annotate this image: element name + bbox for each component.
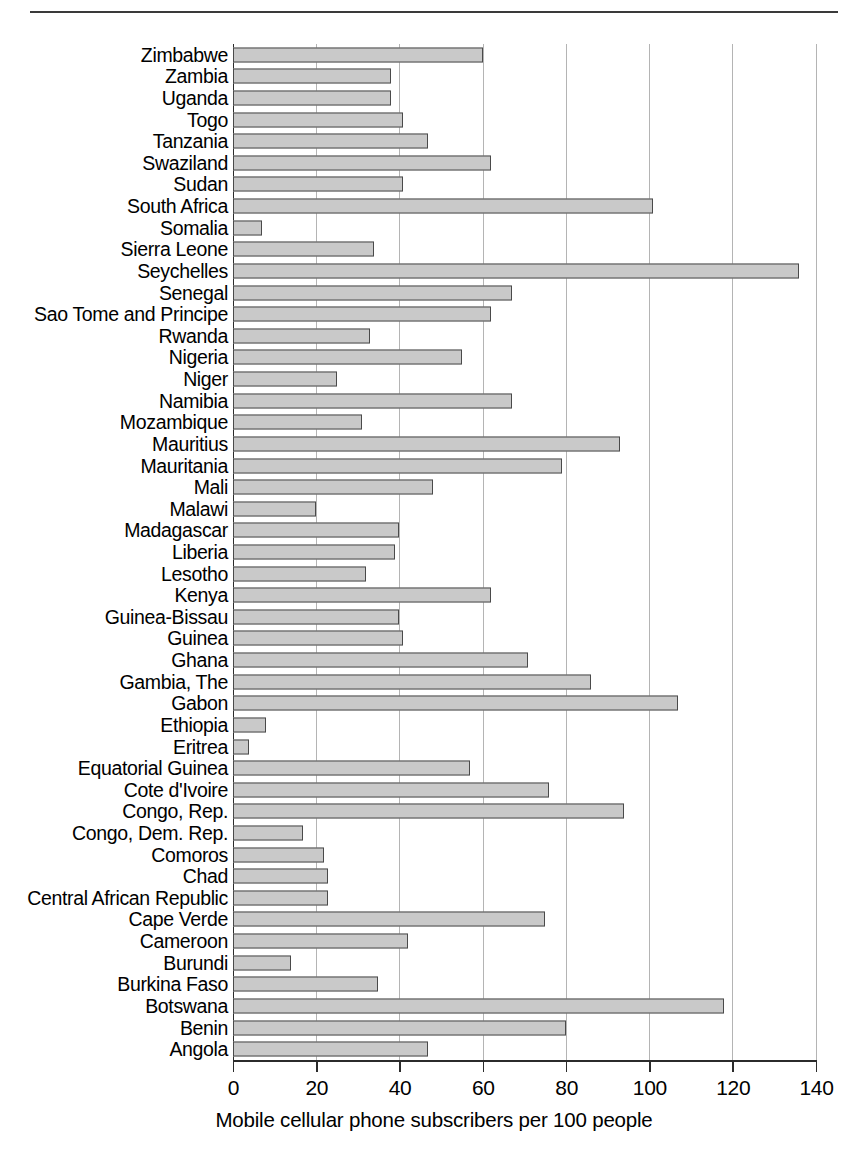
bar-row: Benin: [0, 1017, 868, 1039]
bar: [233, 566, 366, 581]
category-label: South Africa: [127, 195, 228, 217]
category-label: Kenya: [174, 584, 228, 606]
category-label: Senegal: [159, 282, 228, 304]
bar-row: Seychelles: [0, 260, 868, 282]
category-label: Namibia: [159, 390, 228, 412]
bar-row: Mauritania: [0, 455, 868, 477]
bar-row: Guinea: [0, 628, 868, 650]
bar-row: Guinea-Bissau: [0, 606, 868, 628]
bar-row: Madagascar: [0, 520, 868, 542]
bar: [233, 328, 370, 343]
bar: [233, 782, 549, 797]
bar-row: Rwanda: [0, 325, 868, 347]
category-label: Malawi: [169, 498, 228, 520]
category-label: Togo: [187, 109, 228, 131]
tickmark-60: [483, 1062, 485, 1072]
bar-row: Malawi: [0, 498, 868, 520]
category-label: Somalia: [160, 217, 228, 239]
bar-row: Mozambique: [0, 411, 868, 433]
bar-row: Zimbabwe: [0, 44, 868, 66]
bar: [233, 955, 291, 970]
bar: [233, 696, 679, 711]
tickmark-0: [233, 1062, 235, 1072]
bar: [233, 1020, 566, 1035]
x-tick-label: 140: [799, 1076, 833, 1100]
bar-row: Congo, Dem. Rep.: [0, 822, 868, 844]
bar-row: Liberia: [0, 541, 868, 563]
category-label: Madagascar: [124, 519, 228, 541]
x-axis-line: [233, 1060, 817, 1062]
bar: [233, 912, 545, 927]
category-label: Guinea-Bissau: [105, 606, 228, 628]
x-tick-label: 0: [228, 1076, 239, 1100]
tickmark-120: [732, 1062, 734, 1072]
bar: [233, 415, 362, 430]
category-label: Eritrea: [173, 736, 228, 758]
bar: [233, 977, 379, 992]
category-label: Equatorial Guinea: [78, 757, 228, 779]
category-label: Rwanda: [159, 325, 228, 347]
category-label: Comoros: [151, 844, 228, 866]
bar-chart-figure: ZimbabweZambiaUgandaTogoTanzaniaSwazilan…: [0, 0, 868, 1155]
bar: [233, 934, 408, 949]
bar: [233, 588, 491, 603]
top-divider-rule: [30, 11, 838, 13]
x-tick-label: 80: [555, 1076, 578, 1100]
x-axis-title: Mobile cellular phone subscribers per 10…: [0, 1108, 868, 1132]
bar: [233, 739, 250, 754]
bar-row: Gabon: [0, 693, 868, 715]
bar-row: Kenya: [0, 584, 868, 606]
tickmark-20: [316, 1062, 318, 1072]
category-label: Nigeria: [169, 346, 228, 368]
category-label: Central African Republic: [27, 887, 228, 909]
bar-row: Swaziland: [0, 152, 868, 174]
bar-row: Sudan: [0, 174, 868, 196]
bar: [233, 436, 620, 451]
bar: [233, 631, 404, 646]
bar-row: Zambia: [0, 66, 868, 88]
tickmark-100: [649, 1062, 651, 1072]
tickmark-40: [399, 1062, 401, 1072]
category-label: Guinea: [167, 627, 228, 649]
category-label: Seychelles: [137, 260, 228, 282]
category-label: Niger: [183, 368, 228, 390]
category-label: Benin: [180, 1017, 228, 1039]
category-label: Swaziland: [142, 152, 228, 174]
category-label: Cote d'Ivoire: [124, 779, 228, 801]
category-label: Liberia: [172, 541, 228, 563]
category-label: Mali: [194, 476, 228, 498]
category-label: Mauritania: [140, 455, 228, 477]
bar: [233, 69, 391, 84]
bar: [233, 91, 391, 106]
bar-row: Gambia, The: [0, 671, 868, 693]
bar: [233, 761, 470, 776]
bar: [233, 1042, 429, 1057]
bar: [233, 998, 724, 1013]
bar-row: Lesotho: [0, 563, 868, 585]
bar: [233, 155, 491, 170]
bar-row: Mauritius: [0, 433, 868, 455]
bar: [233, 609, 400, 624]
tickmark-80: [566, 1062, 568, 1072]
bar-row: Mali: [0, 476, 868, 498]
bar-row: Nigeria: [0, 347, 868, 369]
bar-row: Namibia: [0, 390, 868, 412]
bar-row: Ghana: [0, 649, 868, 671]
category-label: Sudan: [173, 173, 228, 195]
x-tick-label: 40: [389, 1076, 412, 1100]
category-label: Lesotho: [161, 563, 228, 585]
bar: [233, 804, 624, 819]
bar-row: Tanzania: [0, 130, 868, 152]
bar-row: Ethiopia: [0, 714, 868, 736]
bar-row: Togo: [0, 109, 868, 131]
category-label: Congo, Dem. Rep.: [72, 822, 228, 844]
bar-row: Burkina Faso: [0, 974, 868, 996]
bar-row: Eritrea: [0, 736, 868, 758]
category-label: Zambia: [165, 65, 228, 87]
bar: [233, 544, 395, 559]
bar: [233, 112, 404, 127]
category-label: Mauritius: [152, 433, 228, 455]
bar-row: Central African Republic: [0, 887, 868, 909]
category-label: Sierra Leone: [121, 238, 228, 260]
category-label: Chad: [183, 865, 228, 887]
